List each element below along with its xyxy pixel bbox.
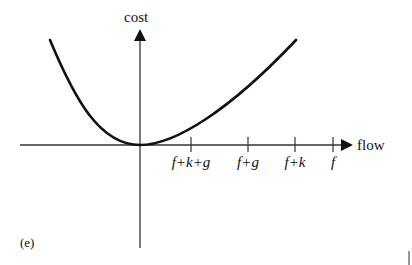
x-tick-label: f+k	[285, 154, 306, 170]
x-tick-labels: f+k+gf+gf+kf	[172, 154, 337, 170]
x-tick-label: f	[331, 154, 337, 170]
x-axis-arrow-icon	[341, 139, 353, 151]
cost-flow-diagram: cost flow f+k+gf+gf+kf (e)	[0, 0, 412, 265]
x-axis-label: flow	[357, 137, 385, 153]
cost-curve	[50, 40, 296, 145]
x-tick-label: f+k+g	[172, 154, 211, 170]
x-tick-label: f+g	[237, 154, 259, 170]
panel-label: (e)	[20, 235, 34, 250]
y-axis-arrow-icon	[134, 29, 146, 41]
y-axis-label: cost	[124, 9, 149, 25]
